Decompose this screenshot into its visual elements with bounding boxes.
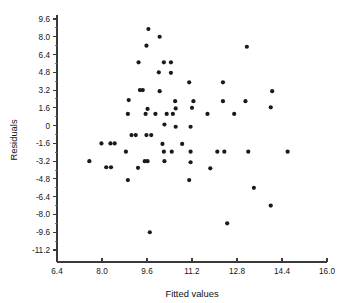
y-tick-label: 0 bbox=[45, 122, 50, 131]
data-point bbox=[205, 112, 209, 116]
y-tick-label: -8.0 bbox=[36, 210, 51, 219]
data-point bbox=[225, 221, 229, 225]
x-tick-label: 6.4 bbox=[51, 267, 63, 276]
x-axis-title: Fitted values bbox=[165, 288, 218, 299]
y-tick-label: 1.6 bbox=[39, 104, 51, 113]
data-point bbox=[129, 133, 133, 137]
data-point bbox=[145, 107, 149, 111]
data-point bbox=[221, 80, 225, 84]
data-point bbox=[162, 159, 166, 163]
data-point bbox=[232, 112, 236, 116]
data-point bbox=[162, 150, 166, 154]
data-point bbox=[124, 150, 128, 154]
data-point bbox=[126, 178, 130, 182]
plot-canvas: 9.68.06.44.83.21.60-1.6-3.2-4.8-6.4-8.0-… bbox=[0, 0, 350, 303]
y-tick-label: 9.6 bbox=[39, 15, 51, 24]
data-point bbox=[158, 89, 162, 93]
ticks-group bbox=[53, 19, 327, 262]
y-tick-label: -1.6 bbox=[36, 139, 51, 148]
data-point bbox=[222, 150, 226, 154]
y-tick-label: 6.4 bbox=[39, 51, 51, 60]
data-point bbox=[252, 186, 256, 190]
data-point bbox=[127, 98, 131, 102]
axes-group bbox=[57, 15, 327, 262]
y-tick-label: -6.4 bbox=[36, 193, 51, 202]
x-tick-label: 11.2 bbox=[184, 267, 200, 276]
y-axis-title: Residuals bbox=[8, 119, 19, 160]
data-point bbox=[141, 88, 145, 92]
data-points-group bbox=[87, 27, 289, 234]
data-point bbox=[162, 60, 166, 64]
data-point bbox=[187, 80, 191, 84]
data-point bbox=[174, 125, 178, 129]
data-point bbox=[157, 70, 161, 74]
y-tick-label: 3.2 bbox=[39, 86, 51, 95]
data-point bbox=[143, 112, 147, 116]
data-point bbox=[126, 112, 130, 116]
data-point bbox=[109, 165, 113, 169]
data-point bbox=[134, 133, 138, 137]
data-point bbox=[270, 89, 274, 93]
data-point bbox=[104, 165, 108, 169]
data-point bbox=[173, 99, 177, 103]
data-point bbox=[146, 27, 150, 31]
data-point bbox=[99, 141, 103, 145]
data-point bbox=[190, 106, 194, 110]
y-tick-label: 4.8 bbox=[39, 68, 51, 77]
x-tick-label: 16.0 bbox=[319, 267, 335, 276]
data-point bbox=[243, 99, 247, 103]
x-tick-label: 9.6 bbox=[141, 267, 153, 276]
data-point bbox=[188, 150, 192, 154]
x-tick-label: 14.4 bbox=[274, 267, 290, 276]
tick-labels-group: 9.68.06.44.83.21.60-1.6-3.2-4.8-6.4-8.0-… bbox=[32, 15, 335, 276]
data-point bbox=[191, 99, 195, 103]
y-tick-label: 8.0 bbox=[39, 33, 51, 42]
data-point bbox=[136, 60, 140, 64]
y-tick-label: -3.2 bbox=[36, 157, 51, 166]
data-point bbox=[188, 125, 192, 129]
data-point bbox=[221, 99, 225, 103]
data-point bbox=[174, 106, 178, 110]
data-point bbox=[215, 150, 219, 154]
y-tick-label: -11.2 bbox=[32, 246, 50, 255]
x-tick-label: 12.8 bbox=[229, 267, 245, 276]
data-point bbox=[269, 203, 273, 207]
data-point bbox=[149, 133, 153, 137]
data-point bbox=[188, 160, 192, 164]
data-point bbox=[245, 45, 249, 49]
data-point bbox=[208, 166, 212, 170]
data-point bbox=[160, 142, 164, 146]
data-point bbox=[144, 44, 148, 48]
data-point bbox=[180, 142, 184, 146]
data-point bbox=[158, 35, 162, 39]
data-point bbox=[145, 159, 149, 163]
data-point bbox=[108, 141, 112, 145]
x-tick-label: 8.0 bbox=[96, 267, 108, 276]
data-point bbox=[148, 230, 152, 234]
data-point bbox=[165, 112, 169, 116]
y-tick-label: -4.8 bbox=[36, 175, 51, 184]
data-point bbox=[144, 133, 148, 137]
data-point bbox=[187, 178, 191, 182]
data-point bbox=[246, 150, 250, 154]
data-point bbox=[162, 122, 166, 126]
data-point bbox=[113, 141, 117, 145]
data-point bbox=[169, 71, 173, 75]
data-point bbox=[153, 112, 157, 116]
scatter-plot-figure: 9.68.06.44.83.21.60-1.6-3.2-4.8-6.4-8.0-… bbox=[0, 0, 350, 303]
data-point bbox=[170, 150, 174, 154]
y-tick-label: -9.6 bbox=[36, 228, 51, 237]
data-point bbox=[286, 150, 290, 154]
data-point bbox=[169, 60, 173, 64]
data-point bbox=[87, 159, 91, 163]
data-point bbox=[171, 112, 175, 116]
data-point bbox=[269, 105, 273, 109]
data-point bbox=[136, 166, 140, 170]
